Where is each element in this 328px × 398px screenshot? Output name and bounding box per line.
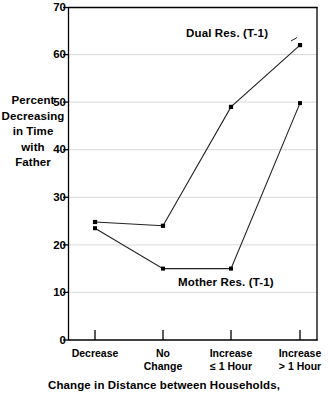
series-annotation-mother-res: Mother Res. (T-1) (178, 276, 274, 288)
data-point-dual-increase-le-1-hour (229, 105, 233, 109)
x-axis-caption: Change in Distance between Households, (0, 379, 328, 391)
x-tick-label-increase-gt-1-hour-line-1: Increase (257, 347, 328, 360)
annotation-leader-dual (291, 38, 297, 42)
y-axis-title-line-3: in Time (0, 124, 66, 140)
y-tick-label-0: 0 (38, 335, 66, 346)
line-chart-figure: Percent Decreasing in Time with Father 7… (0, 0, 328, 398)
data-point-dual-decrease (93, 220, 97, 224)
y-tick-label-10: 10 (38, 287, 66, 298)
data-point-mother-no-change (161, 267, 165, 271)
y-tick-label-60: 60 (38, 49, 66, 60)
data-point-mother-increase-le-1-hour (229, 267, 233, 271)
x-tick-label-increase-gt-1-hour: Increase > 1 Hour (257, 347, 328, 373)
y-tick-label-20: 20 (38, 240, 66, 251)
y-tick-label-70: 70 (38, 2, 66, 13)
series-line-dual-res (95, 45, 300, 226)
series-line-mother-res (95, 103, 300, 269)
x-tick-label-increase-gt-1-hour-line-2: > 1 Hour (257, 360, 328, 373)
x-tick-marks (95, 330, 300, 340)
series-annotation-dual-res: Dual Res. (T-1) (186, 27, 268, 39)
data-point-dual-no-change (161, 224, 165, 228)
data-point-mother-decrease (93, 226, 97, 230)
y-tick-label-50: 50 (38, 97, 66, 108)
y-tick-label-40: 40 (38, 144, 66, 155)
y-axis-title-line-2: Decreasing (0, 109, 66, 125)
y-tick-label-30: 30 (38, 192, 66, 203)
data-point-dual-increase-gt-1-hour (298, 43, 302, 47)
y-axis-title-line-5: Father (0, 155, 66, 171)
data-point-mother-increase-gt-1-hour (298, 101, 302, 105)
